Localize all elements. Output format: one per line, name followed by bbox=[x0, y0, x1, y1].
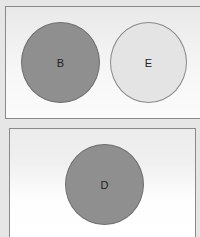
circle-label: B bbox=[57, 57, 64, 69]
circle-label: E bbox=[145, 57, 152, 69]
circle-d[interactable]: D bbox=[65, 144, 144, 225]
panel-bottom: D bbox=[9, 128, 196, 237]
circle-b[interactable]: B bbox=[21, 22, 100, 103]
panel-top: B E bbox=[5, 6, 200, 119]
circle-label: D bbox=[101, 179, 109, 191]
circle-e[interactable]: E bbox=[110, 22, 187, 103]
